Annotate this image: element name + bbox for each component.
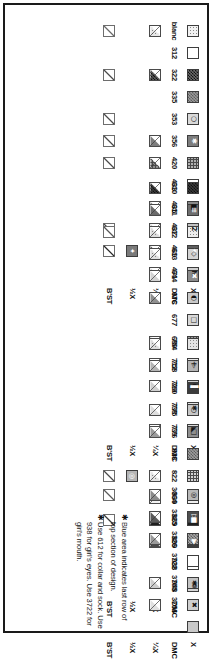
color-swatch-icon <box>188 91 200 103</box>
key-symbol-cell <box>182 86 205 108</box>
key-symbol-cell: ✖ <box>182 594 205 616</box>
key-symbol-cell: ✖ <box>182 265 205 287</box>
backstitch-icon <box>104 135 116 147</box>
half-stitch-cell <box>121 377 144 399</box>
dmc-number: 776 <box>167 421 182 443</box>
backstitch-cell <box>98 265 121 287</box>
quarter-stitch-cell <box>144 421 167 443</box>
dmc-number: 335 <box>167 86 182 108</box>
key-symbol-cell <box>182 64 205 86</box>
key-row-cells: 306433253326372237553756 <box>167 484 182 638</box>
color-swatch-icon: ○ <box>188 113 200 125</box>
half-stitch-cell <box>121 333 144 355</box>
half-stitch-cell <box>121 484 144 506</box>
key-row-label: ½X <box>128 642 137 663</box>
key-symbol-cell <box>182 221 205 243</box>
quarter-stitch-cell <box>144 108 167 130</box>
backstitch-icon <box>104 157 116 169</box>
quarter-stitch-cell <box>144 377 167 399</box>
backstitch-icon <box>104 489 116 501</box>
dmc-number: 758 <box>167 355 182 377</box>
dmc-number <box>167 616 182 638</box>
quarter-stitch-cell <box>144 399 167 421</box>
key-symbol-cell <box>182 177 205 199</box>
dmc-number: 356 <box>167 130 182 152</box>
quarter-stitch-cell <box>144 287 167 309</box>
half-stitch-cell <box>121 265 144 287</box>
dmc-number: 3755 <box>167 572 182 594</box>
color-swatch-icon <box>188 448 200 460</box>
quarter-stitch-cell <box>144 199 167 221</box>
half-stitch-cell <box>121 287 144 309</box>
quarter-stitch-icon <box>150 25 162 37</box>
key-symbol-cell <box>182 152 205 174</box>
color-swatch-icon <box>188 470 200 482</box>
backstitch-icon <box>104 25 116 37</box>
key-symbol-cell: ▷ <box>182 355 205 377</box>
quarter-stitch-cell <box>144 506 167 528</box>
quarter-stitch-icon <box>150 69 162 81</box>
dmc-number: 677 <box>167 309 182 331</box>
color-swatch-icon: ✖ <box>188 599 200 611</box>
backstitch-cell <box>98 130 121 152</box>
quarter-stitch-icon <box>150 248 162 260</box>
quarter-stitch-icon <box>150 533 162 545</box>
pattern-note: ✱Use 612 for collar and sock. Use 938 fo… <box>74 514 106 630</box>
key-symbol-cell: ◎ <box>182 484 205 506</box>
key-row-label: ¼X <box>151 642 160 663</box>
quarter-stitch-icon <box>150 135 162 147</box>
backstitch-cell <box>98 484 121 506</box>
half-stitch-cell <box>121 399 144 421</box>
quarter-stitch-cell <box>144 572 167 594</box>
key-symbol-cell: ≡ <box>182 199 205 221</box>
quarter-stitch-icon <box>150 470 162 482</box>
quarter-stitch-icon <box>150 489 162 501</box>
color-swatch-icon <box>188 182 200 194</box>
half-stitch-cell <box>121 20 144 42</box>
backstitch-cell <box>98 20 121 42</box>
half-stitch-icon: ◎ <box>127 470 139 482</box>
key-symbol-cell: ○ <box>182 399 205 421</box>
dmc-number: 3325 <box>167 506 182 528</box>
key-symbol-cell: □ <box>182 421 205 443</box>
quarter-stitch-icon <box>150 157 162 169</box>
color-swatch-icon: ◐ <box>188 292 200 304</box>
key-symbol-cell <box>182 550 205 572</box>
quarter-stitch-icon <box>150 270 162 282</box>
color-swatch-icon <box>188 338 200 350</box>
backstitch-cell <box>98 177 121 199</box>
quarter-stitch-icon <box>150 292 162 304</box>
color-swatch-icon <box>188 157 200 169</box>
key-row-q: ¼X <box>144 484 167 663</box>
color-swatch-icon <box>188 555 200 567</box>
backstitch-cell <box>98 108 121 130</box>
dmc-number: blanc <box>167 20 182 42</box>
backstitch-cell <box>98 399 121 421</box>
key-symbol-cell <box>182 616 205 638</box>
key-symbol-cell: ◐ <box>182 287 205 309</box>
quarter-stitch-icon <box>150 404 162 416</box>
color-swatch-icon: □ <box>188 314 200 326</box>
backstitch-cell <box>98 443 121 465</box>
key-symbol-cell <box>182 42 205 64</box>
dmc-number: 612 <box>167 221 182 243</box>
backstitch-cell <box>98 152 121 174</box>
backstitch-icon <box>104 69 116 81</box>
backstitch-cell <box>98 243 121 265</box>
quarter-stitch-cell <box>144 484 167 506</box>
backstitch-cell <box>98 86 121 108</box>
pattern-note: ✱Blue area indicates last row of top sec… <box>108 514 129 630</box>
half-stitch-cell <box>121 64 144 86</box>
half-stitch-cell <box>121 108 144 130</box>
backstitch-icon <box>104 226 116 238</box>
backstitch-cell <box>98 64 121 86</box>
half-stitch-cell <box>121 130 144 152</box>
quarter-stitch-cell <box>144 594 167 616</box>
key-symbol-cell: □ <box>182 309 205 331</box>
backstitch-cell <box>98 42 121 64</box>
quarter-stitch-icon <box>150 426 162 438</box>
backstitch-cell <box>98 309 121 331</box>
key-row-cells <box>144 484 167 638</box>
color-swatch-icon <box>188 69 200 81</box>
